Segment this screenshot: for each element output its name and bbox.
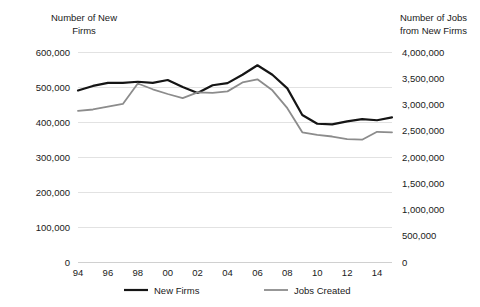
x-axis-tick-label: 00 (162, 267, 173, 278)
x-axis-tick-label: 06 (252, 267, 263, 278)
right-axis-tick-label: 4,000,000 (402, 47, 444, 58)
right-axis-tick-label: 1,000,000 (402, 204, 444, 215)
x-axis-tick-label: 98 (133, 267, 144, 278)
left-axis-tick-label: 100,000 (36, 222, 70, 233)
chart-legend: New FirmsJobs Created (124, 285, 351, 296)
right-axis-tick-label: 500,000 (402, 230, 436, 241)
legend-label-jobs-created: Jobs Created (294, 285, 351, 296)
x-axis-tick-labels: 9496980002040608101214 (73, 267, 383, 278)
right-axis-title-line1: Number of Jobs (400, 12, 467, 23)
x-axis-tick-label: 94 (73, 267, 84, 278)
x-axis-tick-label: 08 (282, 267, 293, 278)
right-axis-title-line2: from New Firms (400, 25, 467, 36)
left-axis-title-line2: Firms (72, 25, 96, 36)
left-axis-tick-label: 300,000 (36, 152, 70, 163)
x-axis-tick-label: 14 (372, 267, 383, 278)
right-axis-tick-labels: 0500,0001,000,0001,500,0002,000,0002,500… (402, 47, 444, 268)
left-axis-tick-label: 200,000 (36, 187, 70, 198)
x-axis-tick-label: 96 (103, 267, 114, 278)
right-axis-tick-label: 3,000,000 (402, 99, 444, 110)
right-axis-tick-label: 1,500,000 (402, 178, 444, 189)
x-axis-tick-label: 12 (342, 267, 353, 278)
series-line-new-firms (78, 65, 392, 124)
series-lines (78, 65, 392, 139)
left-axis-tick-label: 500,000 (36, 82, 70, 93)
left-axis-tick-labels: 0100,000200,000300,000400,000500,000600,… (36, 47, 70, 268)
line-chart: 0100,000200,000300,000400,000500,000600,… (0, 0, 480, 307)
left-axis-tick-label: 600,000 (36, 47, 70, 58)
right-axis-tick-label: 0 (402, 257, 407, 268)
left-axis-title-line1: Number of New (51, 12, 117, 23)
right-axis-tick-label: 2,000,000 (402, 152, 444, 163)
x-axis-tick-label: 10 (312, 267, 323, 278)
legend-label-new-firms: New Firms (154, 285, 200, 296)
series-line-jobs-created (78, 79, 392, 139)
left-axis-tick-label: 400,000 (36, 117, 70, 128)
chart-container: 0100,000200,000300,000400,000500,000600,… (0, 0, 480, 307)
right-axis-tick-label: 2,500,000 (402, 125, 444, 136)
left-axis-tick-label: 0 (65, 257, 70, 268)
gridlines (78, 53, 392, 263)
x-axis-tick-label: 02 (192, 267, 203, 278)
x-axis-tick-label: 04 (222, 267, 233, 278)
right-axis-tick-label: 3,500,000 (402, 73, 444, 84)
